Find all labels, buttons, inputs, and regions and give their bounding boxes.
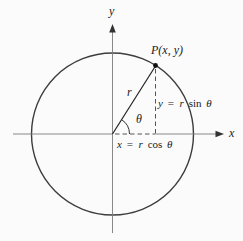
y-axis-arrowhead (109, 24, 116, 33)
y-equation-label: y = r sin θ (158, 98, 212, 109)
polar-coordinates-diagram: y x P(x, y) r θ y = r sin θ x = r cos θ (0, 0, 243, 241)
y-equation-lhs: y (158, 98, 163, 109)
angle-arc (122, 120, 130, 134)
point-p-dot (153, 63, 158, 68)
x-equation-arg: θ (167, 139, 172, 150)
angle-label: θ (136, 113, 142, 125)
radius-line (113, 66, 156, 134)
y-equation-fn: sin (189, 98, 202, 109)
y-equation-coef: r (180, 98, 184, 109)
x-axis-label: x (229, 127, 234, 139)
x-equation-fn: cos (148, 139, 163, 150)
y-axis-label: y (109, 5, 114, 17)
y-equation-arg: θ (206, 98, 211, 109)
point-p-label: P(x, y) (151, 44, 183, 56)
x-equation-coef: r (139, 139, 143, 150)
diagram-canvas (0, 0, 243, 241)
x-equation-lhs: x (117, 139, 122, 150)
y-equation-equals: = (168, 98, 174, 109)
x-equation-equals: = (127, 139, 133, 150)
x-equation-label: x = r cos θ (117, 139, 172, 150)
radius-label: r (127, 86, 132, 98)
x-axis-arrowhead (216, 131, 225, 138)
